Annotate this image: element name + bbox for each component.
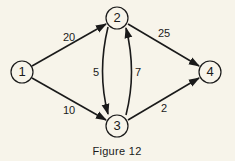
edge-2-3-weight: 5 — [93, 66, 99, 78]
edge-2-3 — [103, 27, 109, 114]
figure-caption: Figure 12 — [92, 145, 141, 157]
node-4-label: 4 — [199, 61, 221, 83]
edge-3-2-weight: 7 — [135, 66, 141, 78]
edge-1-2-weight: 20 — [63, 31, 75, 43]
edge-1-3-weight: 10 — [63, 104, 75, 116]
network-diagram: 1 2 3 4 20 10 5 7 25 2 Figure 12 — [0, 0, 235, 161]
edge-3-4-weight: 2 — [161, 102, 167, 114]
node-3-label: 3 — [106, 115, 128, 137]
node-1-label: 1 — [11, 61, 33, 83]
node-2-label: 2 — [106, 7, 128, 29]
edge-2-4-weight: 25 — [158, 27, 170, 39]
edge-3-2 — [126, 28, 132, 115]
